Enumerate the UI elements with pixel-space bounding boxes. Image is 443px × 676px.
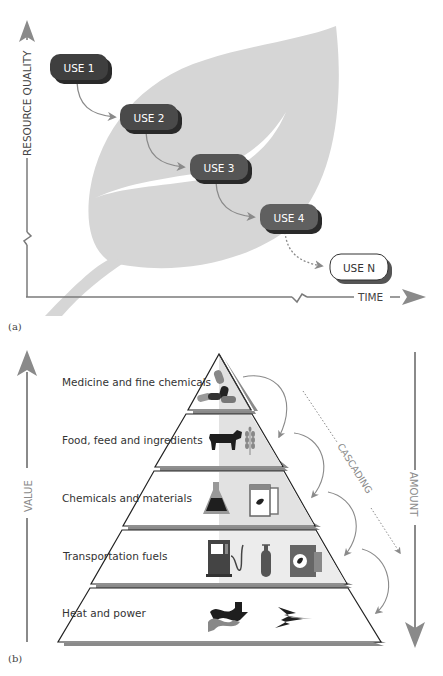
value-axis-label: VALUE [23, 480, 34, 512]
jars-icon [250, 485, 278, 516]
use-n-label: USE N [343, 262, 375, 274]
use-n-box: USE N [330, 254, 392, 284]
panel-a: RESOURCE QUALITY TIME USE 1 USE 2 [8, 20, 426, 332]
use-1-box: USE 1 [50, 54, 112, 84]
panel-a-tag: (a) [8, 321, 22, 332]
y-axis-label: RESOURCE QUALITY [21, 50, 33, 156]
use-2-label: USE 2 [133, 112, 164, 124]
use-4-box: USE 4 [260, 204, 322, 234]
tier-label-heat: Heat and power [62, 607, 146, 619]
value-axis: VALUE [17, 350, 37, 642]
figure: RESOURCE QUALITY TIME USE 1 USE 2 [0, 0, 443, 676]
use-3-label: USE 3 [203, 162, 234, 174]
use-3-box: USE 3 [190, 154, 252, 184]
panel-b: VALUE AMOUNT [8, 350, 425, 664]
tier-label-medicine: Medicine and fine chemicals [62, 376, 211, 388]
tier-label-fuels: Transportation fuels [62, 550, 167, 562]
y-axis: RESOURCE QUALITY [19, 20, 35, 297]
tier-label-food: Food, feed and ingredients [62, 434, 203, 446]
x-axis-arrow-icon [402, 289, 426, 305]
use-4-label: USE 4 [273, 212, 304, 224]
x-axis-label: TIME [357, 291, 383, 303]
amount-axis-label: AMOUNT [408, 472, 419, 517]
panel-b-tag: (b) [8, 653, 22, 664]
use-2-box: USE 2 [120, 104, 182, 134]
amount-axis: AMOUNT [405, 352, 425, 648]
tier-label-chemicals: Chemicals and materials [62, 492, 192, 504]
cascading-label: CASCADING [335, 441, 374, 495]
use-1-label: USE 1 [63, 62, 94, 74]
